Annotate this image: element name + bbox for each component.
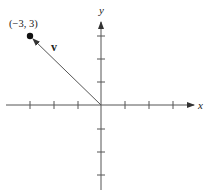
point-neg3-3: (−3, 3) bbox=[9, 18, 38, 39]
vector-v: v bbox=[33, 39, 101, 105]
vector-label: v bbox=[51, 40, 57, 54]
y-axis: y bbox=[97, 4, 105, 190]
y-axis-label: y bbox=[98, 4, 104, 16]
point-dot bbox=[27, 33, 33, 39]
x-axis: x bbox=[6, 99, 203, 111]
x-axis-label: x bbox=[197, 99, 203, 111]
point-label: (−3, 3) bbox=[9, 18, 38, 30]
coordinate-plane: x y v (−3, 3) bbox=[0, 0, 210, 192]
